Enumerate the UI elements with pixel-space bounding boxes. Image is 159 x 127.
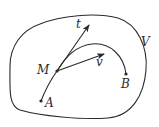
point-b-dot [124,72,127,75]
diagram-canvas: t V M v A B [0,0,159,127]
label-b: B [121,78,130,90]
label-a: A [45,97,54,109]
label-v-velocity: v [96,56,103,68]
trajectory-curve [41,44,126,101]
label-t: t [76,18,81,30]
label-m: M [37,64,49,76]
point-m-dot [55,69,58,72]
label-v-region: V [141,36,150,48]
point-a-dot [39,99,42,102]
tangent-vector-t [57,25,89,71]
